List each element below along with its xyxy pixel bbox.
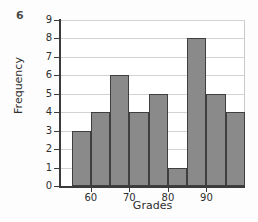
gridline <box>60 75 245 76</box>
bar <box>149 94 168 186</box>
y-tick-mark <box>54 57 59 58</box>
gridline <box>60 57 245 58</box>
y-tick-mark <box>54 112 59 113</box>
y-tick-label: 1 <box>38 162 52 173</box>
y-tick-mark <box>54 149 59 150</box>
y-tick-mark <box>54 20 59 21</box>
x-axis-line <box>59 186 245 188</box>
y-tick-mark <box>54 75 59 76</box>
bar <box>129 112 148 186</box>
y-tick-mark <box>54 168 59 169</box>
bar <box>187 38 206 186</box>
bar <box>226 112 245 186</box>
x-tick-label: 70 <box>118 192 140 203</box>
y-tick-mark <box>54 131 59 132</box>
plot-area <box>60 20 245 186</box>
y-tick-label: 2 <box>38 143 52 154</box>
y-tick-label: 0 <box>38 180 52 191</box>
gridline <box>60 20 245 21</box>
bar <box>110 75 129 186</box>
y-tick-label: 4 <box>38 106 52 117</box>
y-tick-mark <box>54 38 59 39</box>
y-tick-label: 8 <box>38 32 52 43</box>
bar <box>168 168 187 186</box>
bar <box>206 94 225 186</box>
y-tick-label: 6 <box>38 69 52 80</box>
y-tick-label: 3 <box>38 125 52 136</box>
bar <box>91 112 110 186</box>
x-tick-label: 60 <box>80 192 102 203</box>
x-tick-label: 90 <box>195 192 217 203</box>
y-tick-mark <box>54 94 59 95</box>
y-axis-line <box>59 19 61 187</box>
histogram-figure: 6 Frequency Grades 0123456789 60708090 <box>0 0 258 222</box>
y-tick-label: 5 <box>38 88 52 99</box>
x-tick-label: 80 <box>157 192 179 203</box>
y-tick-mark <box>54 186 59 187</box>
y-tick-label: 7 <box>38 51 52 62</box>
y-axis-title: Frequency <box>12 44 25 128</box>
gridline <box>60 38 245 39</box>
y-tick-label: 9 <box>38 14 52 25</box>
problem-number-label: 6 <box>16 9 24 22</box>
bar <box>72 131 91 186</box>
